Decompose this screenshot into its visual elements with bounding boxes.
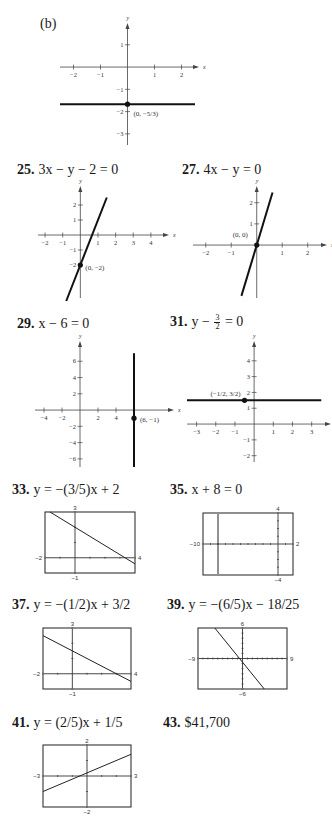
xmax-label: 4 <box>134 671 138 677</box>
problem-equation: y = −(6/5)x − 18/25 <box>189 597 300 612</box>
point-label: (0, −2) <box>85 264 105 272</box>
y-axis-label: y <box>126 15 130 21</box>
x-tick-label: −4 <box>41 414 49 421</box>
x-axis-arrow <box>168 408 174 412</box>
problem-number: 35. <box>170 482 188 497</box>
y-axis-label: y <box>255 178 259 184</box>
problem-31-label: 31.y − 32 = 0 <box>170 314 243 331</box>
y-tick-label: 3 <box>247 373 250 380</box>
problem-equation: x − 6 = 0 <box>39 316 90 331</box>
xmax-label: 3 <box>134 773 138 779</box>
graph-29: xy−4−224642−2−4−6(6, −1) <box>30 337 170 472</box>
y-tick-label: 1 <box>120 41 123 48</box>
ymin-label: −1 <box>69 691 77 697</box>
graph-35: −1024−4 <box>188 505 308 590</box>
problem-equation-post: = 0 <box>221 314 243 329</box>
graph-b: xy−2−1121−1−2−3(0, −5/3) <box>55 15 195 150</box>
y-tick-label: −6 <box>69 455 77 462</box>
y-tick-label: 2 <box>73 201 76 208</box>
problem-number: 27. <box>182 162 200 177</box>
x-tick-label: 3 <box>310 428 313 435</box>
problem-equation: y = −(1/2)x + 3/2 <box>34 597 131 612</box>
y-axis-label: y <box>78 178 82 184</box>
point-label: (0, 0) <box>233 231 249 239</box>
problem-number: 39. <box>167 597 185 612</box>
y-axis-arrow <box>252 341 256 347</box>
x-tick-label: 2 <box>180 71 183 78</box>
xmin-label: −2 <box>35 555 43 561</box>
y-tick-label: −2 <box>69 423 76 430</box>
y-tick-label: 4 <box>247 357 251 364</box>
graph-39: −996−6 <box>185 620 305 705</box>
x-tick-label: 1 <box>281 249 284 256</box>
problem-33-label: 33.y = −(3/5)x + 2 <box>12 483 119 497</box>
problem-number: 31. <box>170 314 188 329</box>
ymax-label: 4 <box>276 506 280 512</box>
graph-point <box>131 416 136 421</box>
y-tick-label: −3 <box>117 130 124 137</box>
x-tick-label: 2 <box>114 239 117 246</box>
y-tick-label: −2 <box>69 261 76 268</box>
x-tick-label: 2 <box>291 428 294 435</box>
x-tick-label: −2 <box>42 239 49 246</box>
ymin-label: −1 <box>72 575 80 581</box>
x-tick-label: 3 <box>132 239 135 246</box>
xmin-label: −3 <box>33 773 41 779</box>
x-tick-label: −2 <box>59 414 66 421</box>
graph-25: xy−2−1123421−1−2(0, −2) <box>30 180 165 305</box>
x-axis-arrow <box>325 422 331 426</box>
problem-number: 43. <box>163 715 181 730</box>
y-tick-label: 1 <box>247 404 250 411</box>
x-tick-label: −1 <box>228 249 235 256</box>
xmax-label: 4 <box>138 555 142 561</box>
ymax-label: 3 <box>73 505 77 511</box>
y-tick-label: 1 <box>73 216 76 223</box>
problem-41-label: 41.y = (2/5)x + 1/5 <box>12 716 122 730</box>
fraction-denominator: 2 <box>214 323 220 331</box>
x-tick-label: 1 <box>96 239 99 246</box>
y-axis-label: y <box>252 333 256 339</box>
graph-33: −243−1 <box>30 505 150 590</box>
y-tick-label: −1 <box>117 86 124 93</box>
x-axis-label: x <box>202 64 206 70</box>
x-tick-label: 1 <box>153 71 156 78</box>
x-tick-label: 2 <box>96 414 99 421</box>
x-tick-label: 4 <box>149 239 153 246</box>
graph-point <box>254 242 259 247</box>
ymax-label: 3 <box>71 621 75 627</box>
graph-point <box>78 262 83 267</box>
problem-25-label: 25.3x − y − 2 = 0 <box>17 163 118 177</box>
y-tick-label: −1 <box>243 436 250 443</box>
y-tick-label: −1 <box>69 246 76 253</box>
viewing-window <box>45 512 135 573</box>
problem-number: 25. <box>17 162 35 177</box>
x-tick-label: 4 <box>114 414 118 421</box>
problem-equation: 4x − y = 0 <box>204 162 262 177</box>
x-axis-arrow <box>321 243 327 247</box>
xmax-label: 9 <box>290 656 294 662</box>
y-tick-label: 2 <box>73 390 76 397</box>
graph-27: xy−2−11221(0, 0) <box>188 180 323 305</box>
x-tick-label: −2 <box>202 249 209 256</box>
problem-equation: y = (2/5)x + 1/5 <box>34 715 123 730</box>
y-tick-label: −2 <box>117 108 124 115</box>
x-tick-label: −2 <box>212 428 219 435</box>
x-tick-label: −1 <box>231 428 238 435</box>
y-axis-arrow <box>78 341 82 347</box>
problem-answer: $41,700 <box>185 715 231 730</box>
x-axis-label: x <box>177 407 181 413</box>
problem-equation: x + 8 = 0 <box>192 482 243 497</box>
problem-37-label: 37.y = −(1/2)x + 3/2 <box>12 598 130 612</box>
graph-31: xy−3−2−11234321−1−2(−1/2, 3/2) <box>182 337 327 467</box>
y-tick-label: −2 <box>243 452 250 459</box>
problem-27-label: 27.4x − y = 0 <box>182 163 261 177</box>
y-tick-label: 4 <box>73 374 77 381</box>
xmin-label: −9 <box>188 656 196 662</box>
graph-line <box>50 512 135 564</box>
x-tick-label: −2 <box>70 71 77 78</box>
graph-41: −332−2 <box>30 737 150 822</box>
x-tick-label: −1 <box>97 71 104 78</box>
y-axis-arrow <box>126 23 130 29</box>
y-tick-label: 2 <box>247 389 250 396</box>
problem-number: 41. <box>12 715 30 730</box>
